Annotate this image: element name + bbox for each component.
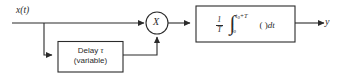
integrator-expression: 1 T ∫ t0+T t0 ( )dt [198, 10, 293, 40]
correlator-block-diagram: x(t) X Delay τ (variable) 1 T ∫ t0+T t0 … [0, 0, 340, 82]
delay-tap-wire [44, 23, 52, 55]
integrand-placeholder: ( ) [260, 20, 268, 30]
output-signal-label: y [325, 17, 329, 27]
delay-block-label-prefix: Delay [78, 46, 101, 55]
integral-lower-limit-subscript: 0 [233, 29, 235, 34]
delay-output-wire [123, 37, 157, 55]
delay-block-label-line2: (variable) [60, 57, 121, 65]
multiplier-symbol: X [153, 17, 159, 27]
input-signal-label: x(t) [16, 6, 29, 16]
delay-block-label-line1: Delay τ [78, 46, 104, 55]
integrand-expression: ( )dt [260, 21, 275, 30]
differential-dt: dt [268, 20, 275, 30]
integral-upper-limit-suffix: +T [240, 12, 248, 19]
one-over-t-fraction: 1 T [216, 16, 222, 34]
integral-upper-limit: t0+T [236, 13, 248, 21]
delay-block-label: Delay τ (variable) [60, 47, 121, 65]
tau-symbol: τ [100, 46, 103, 55]
fraction-numerator: 1 [216, 16, 222, 24]
fraction-denominator: T [216, 25, 222, 34]
integral-lower-limit: t0 [232, 27, 236, 35]
definite-integral-group: ∫ t0+T t0 [226, 14, 248, 36]
